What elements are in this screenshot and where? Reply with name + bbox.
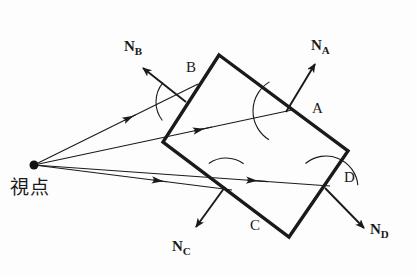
normal-subscript-a: A [322, 44, 330, 56]
normal-label-d: ND [370, 222, 389, 240]
face-label-a: A [312, 101, 323, 116]
face-label-b: B [186, 60, 196, 75]
ray-to-face-D [34, 165, 330, 186]
normal-subscript-d: D [381, 228, 389, 240]
normal-symbol-a: N [311, 37, 322, 53]
face-label-d: D [344, 170, 355, 185]
normal-label-c: NC [172, 239, 191, 257]
normal-vector-visibility-diagram [0, 0, 417, 277]
normal-vector-d [325, 188, 364, 228]
normal-symbol-d: N [370, 221, 381, 237]
normal-label-b: NB [124, 39, 142, 57]
ray-to-face-D-direction-arrow [247, 180, 268, 181]
viewpoint-dot [30, 161, 39, 170]
ray-to-face-C-direction-arrow [153, 180, 167, 182]
ray-to-face-C [34, 165, 232, 190]
normal-symbol-b: N [124, 38, 135, 54]
angle-arc-C [209, 158, 244, 164]
normal-symbol-c: N [172, 238, 183, 254]
ray-to-face-B-direction-arrow [124, 115, 135, 121]
face-label-c: C [250, 218, 260, 233]
normal-subscript-c: C [183, 245, 191, 257]
angle-arcs-group [156, 82, 358, 185]
quadrilateral-object [163, 55, 348, 237]
normal-label-a: NA [311, 38, 330, 56]
ray-to-face-A-direction-arrow [194, 127, 212, 131]
normal-vector-b [143, 68, 186, 102]
normal-vectors-group [143, 64, 364, 228]
normal-subscript-b: B [135, 45, 142, 57]
normal-vector-c [196, 187, 225, 227]
viewpoint-label: 視点 [10, 178, 50, 197]
normal-vector-a [286, 64, 315, 112]
